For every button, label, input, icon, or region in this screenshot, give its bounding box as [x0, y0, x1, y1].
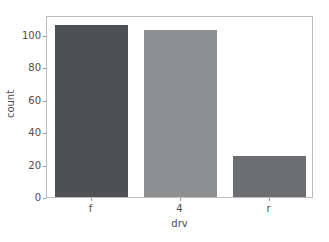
- y-tick-label-80: 80: [3, 63, 41, 73]
- x-tick-label-f: f: [71, 203, 111, 215]
- y-tick-mark-60: [43, 101, 46, 102]
- y-tick-mark-20: [43, 166, 46, 167]
- y-tick-mark-0: [43, 198, 46, 199]
- y-tick-mark-40: [43, 133, 46, 134]
- x-tick-mark-r: [269, 198, 270, 201]
- y-tick-mark-100: [43, 36, 46, 37]
- y-axis-label: count: [5, 74, 17, 134]
- bar-r: [233, 156, 307, 197]
- y-tick-label-100: 100: [3, 31, 41, 41]
- bar-4: [144, 30, 218, 197]
- y-tick-mark-80: [43, 68, 46, 69]
- bar-f: [55, 25, 129, 197]
- plot-area: [46, 16, 313, 198]
- x-tick-label-r: r: [249, 203, 289, 215]
- y-tick-label-0: 0: [3, 193, 41, 203]
- x-axis-label: drv: [46, 218, 313, 230]
- y-tick-label-20: 20: [3, 161, 41, 171]
- bars-layer: [47, 17, 312, 197]
- x-tick-mark-f: [91, 198, 92, 201]
- bar-chart-figure: 020406080100 f4r drv count: [0, 0, 329, 242]
- x-tick-mark-4: [180, 198, 181, 201]
- x-tick-label-4: 4: [160, 203, 200, 215]
